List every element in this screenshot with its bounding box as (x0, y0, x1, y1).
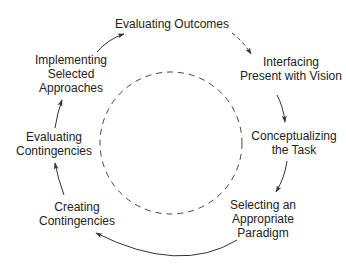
node-evaluating-contingencies: Evaluating Contingencies (16, 130, 92, 158)
node-label-line: Evaluating Outcomes (115, 17, 229, 31)
arrow-conceptualizing-to-selecting (276, 161, 287, 192)
arrow-implementing-to-outcomes (97, 34, 124, 52)
node-label-line: Selected (35, 67, 107, 81)
node-label-line: Interfacing (240, 55, 342, 69)
node-label-line: Contingencies (16, 144, 92, 158)
arrow-selecting-to-creating (96, 233, 237, 256)
node-label-line: Conceptualizing (251, 129, 336, 143)
center-dashed-circle (100, 72, 242, 214)
node-label-line: Approaches (35, 81, 107, 95)
node-label-line: Creating (39, 200, 115, 214)
arrow-interfacing-to-conceptualizing (277, 95, 285, 122)
arrow-creating-to-evaluating-contingencies (55, 163, 64, 195)
node-evaluating-outcomes: Evaluating Outcomes (115, 17, 229, 31)
node-label-line: Present with Vision (240, 69, 342, 83)
node-label-line: the Task (251, 143, 336, 157)
node-creating-contingencies: Creating Contingencies (39, 200, 115, 228)
node-label-line: Evaluating (16, 130, 92, 144)
node-interfacing-present-with-vision: Interfacing Present with Vision (240, 55, 342, 83)
node-selecting-an-appropriate-paradigm: Selecting an Appropriate Paradigm (230, 198, 296, 240)
node-label-line: Appropriate (230, 212, 296, 226)
node-label-line: Selecting an (230, 198, 296, 212)
node-label-line: Implementing (35, 53, 107, 67)
node-implementing-selected-approaches: Implementing Selected Approaches (35, 53, 107, 95)
arrow-evaluating-contingencies-to-implementing (55, 100, 62, 128)
arrow-outcomes-to-interfacing (232, 33, 251, 54)
node-label-line: Contingencies (39, 214, 115, 228)
node-conceptualizing-the-task: Conceptualizing the Task (251, 129, 336, 157)
cycle-diagram: Evaluating Outcomes Interfacing Present … (0, 0, 346, 273)
node-label-line: Paradigm (230, 226, 296, 240)
